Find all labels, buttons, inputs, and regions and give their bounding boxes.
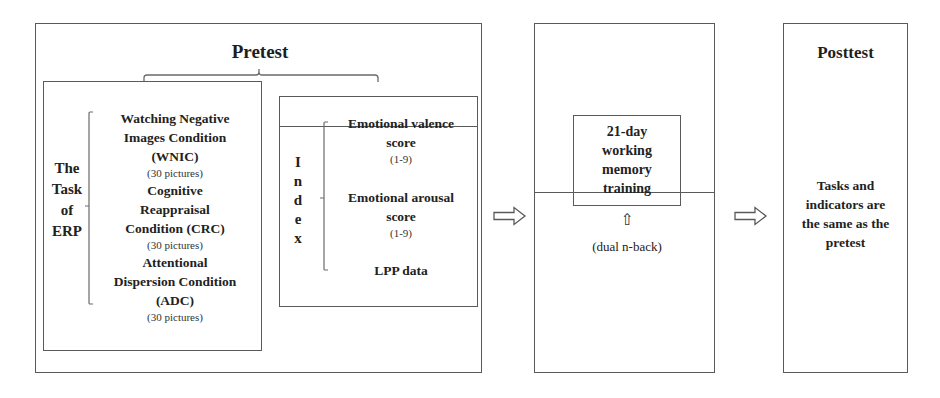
arrow-right-icon xyxy=(734,206,768,226)
condition-title-line: Images Condition xyxy=(94,128,256,147)
condition-title-line: Reappraisal xyxy=(94,200,256,219)
condition-title-line: Attentional xyxy=(94,253,256,272)
arrow-right-icon xyxy=(493,206,527,226)
condition-title-line: Watching Negative xyxy=(94,109,256,128)
erp-task-label-line: of xyxy=(46,200,88,221)
erp-task-label-line: The xyxy=(46,158,88,179)
index-label-letter: n xyxy=(288,172,308,191)
condition-wnic: Watching Negative Images Condition (WNIC… xyxy=(94,109,256,181)
index-item-title-line: LPP data xyxy=(327,261,475,280)
condition-title-line: Dispersion Condition xyxy=(94,272,256,291)
posttest-description-line: indicators are xyxy=(785,195,906,214)
index-item-arousal: Emotional arousal score (1-9) xyxy=(327,188,475,241)
condition-count: (30 pictures) xyxy=(94,310,256,325)
training-title-line: memory xyxy=(573,160,681,179)
index-item-lpp: LPP data xyxy=(327,261,475,280)
up-arrow-icon: ⇧ xyxy=(610,210,644,230)
index-item-title-line: score xyxy=(327,133,475,152)
condition-count: (30 pictures) xyxy=(94,166,256,181)
condition-title-line: (WNIC) xyxy=(94,147,256,166)
erp-task-label-line: Task xyxy=(46,179,88,200)
index-item-title-line: Emotional valence xyxy=(327,114,475,133)
erp-conditions-list: Watching Negative Images Condition (WNIC… xyxy=(94,109,256,325)
training-title-line: training xyxy=(573,179,681,198)
index-label-letter: x xyxy=(288,229,308,248)
posttest-description: Tasks and indicators are the same as the… xyxy=(785,176,906,252)
condition-title-line: (ADC) xyxy=(94,291,256,310)
erp-task-label-line: ERP xyxy=(46,221,88,242)
index-item-range: (1-9) xyxy=(327,152,475,167)
training-title-line: 21-day xyxy=(573,122,681,141)
condition-title-line: Cognitive xyxy=(94,181,256,200)
posttest-title: Posttest xyxy=(783,42,908,64)
posttest-description-line: the same as the xyxy=(785,214,906,233)
condition-count: (30 pictures) xyxy=(94,238,256,253)
index-label-letter: I xyxy=(288,153,308,172)
condition-crc: Cognitive Reappraisal Condition (CRC) (3… xyxy=(94,181,256,253)
index-item-title-line: score xyxy=(327,207,475,226)
index-label-letter: d xyxy=(288,191,308,210)
index-item-valence: Emotional valence score (1-9) xyxy=(327,114,475,167)
erp-task-label: The Task of ERP xyxy=(46,158,88,242)
condition-adc: Attentional Dispersion Condition (ADC) (… xyxy=(94,253,256,325)
training-method: (dual n-back) xyxy=(574,238,680,256)
index-label-letter: e xyxy=(288,210,308,229)
training-title: 21-day working memory training xyxy=(573,122,681,198)
index-items-list: Emotional valence score (1-9) Emotional … xyxy=(327,114,475,280)
condition-title-line: Condition (CRC) xyxy=(94,219,256,238)
posttest-description-line: pretest xyxy=(785,233,906,252)
posttest-description-line: Tasks and xyxy=(785,176,906,195)
training-title-line: working xyxy=(573,141,681,160)
pretest-title: Pretest xyxy=(200,40,320,64)
index-item-title-line: Emotional arousal xyxy=(327,188,475,207)
index-label: I n d e x xyxy=(288,153,308,248)
index-item-range: (1-9) xyxy=(327,226,475,241)
